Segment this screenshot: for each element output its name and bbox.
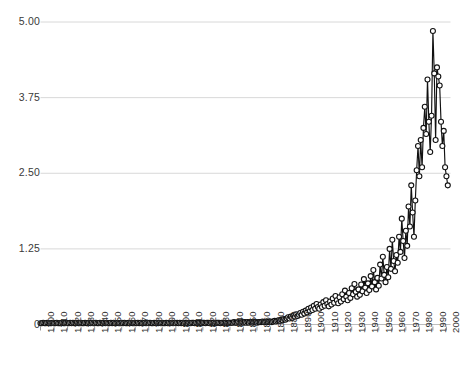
xtick-label-1790: 1790 [166,311,177,333]
data-point [445,183,450,188]
xtick-label-1860: 1860 [261,311,272,333]
xtick-label-1710: 1710 [58,311,69,333]
data-point [395,260,400,265]
data-point [417,174,422,179]
data-point [425,77,430,82]
xtick-label-1830: 1830 [220,311,231,333]
xtick-label-1910: 1910 [329,311,340,333]
ytick-label-1.25: 1.25 [0,243,40,253]
data-point [376,283,381,288]
data-point [361,277,366,282]
xtick-label-1970: 1970 [410,311,421,333]
data-point [352,281,357,286]
data-point [437,83,442,88]
data-point [390,237,395,242]
xtick-label-1960: 1960 [396,311,407,333]
data-point [420,165,425,170]
xtick-label-1950: 1950 [383,311,394,333]
xtick-label-1870: 1870 [275,311,286,333]
data-point [443,165,448,170]
xtick-label-1800: 1800 [180,311,191,333]
ytick-label-3.75: 3.75 [0,92,40,102]
data-point [387,246,392,251]
data-point [441,128,446,133]
xtick-label-1780: 1780 [153,311,164,333]
xtick-label-1880: 1880 [288,311,299,333]
data-point [421,125,426,130]
xtick-label-1920: 1920 [342,311,353,333]
data-point [416,144,421,149]
data-point [436,74,441,79]
xtick-label-2000: 2000 [450,311,461,333]
ytick-label-5.00: 5.00 [0,16,40,26]
data-point [368,274,373,279]
xtick-label-1850: 1850 [247,311,258,333]
data-point [407,224,412,229]
data-point [378,262,383,267]
xtick-label-1730: 1730 [85,311,96,333]
data-point [426,119,431,124]
xtick-label-1750: 1750 [112,311,123,333]
data-point-group [38,29,450,326]
data-point [413,198,418,203]
data-point [386,275,391,280]
data-point [429,113,434,118]
data-point [405,243,410,248]
data-point [418,137,423,142]
data-point [397,234,402,239]
ytick-label-0: 0 [0,319,40,329]
xtick-label-1980: 1980 [423,311,434,333]
xtick-label-1760: 1760 [126,311,137,333]
data-point [434,65,439,70]
xtick-label-1810: 1810 [193,311,204,333]
data-point [406,204,411,209]
data-point [444,174,449,179]
xtick-label-1700: 1700 [45,311,56,333]
data-point [422,104,427,109]
data-point [402,255,407,260]
xtick-label-1900: 1900 [315,311,326,333]
xtick-label-1990: 1990 [437,311,448,333]
data-point [433,137,438,142]
data-point [399,216,404,221]
xtick-label-1720: 1720 [72,311,83,333]
data-point [430,29,435,34]
xtick-label-1840: 1840 [234,311,245,333]
data-point [439,119,444,124]
xtick-label-1890: 1890 [302,311,313,333]
data-point [409,183,414,188]
xtick-label-1820: 1820 [207,311,218,333]
data-point [371,268,376,273]
data-point [424,131,429,136]
xtick-label-1930: 1930 [356,311,367,333]
data-point [401,239,406,244]
data-point [398,249,403,254]
xtick-label-1740: 1740 [99,311,110,333]
data-point [414,168,419,173]
data-point [403,228,408,233]
xtick-label-1770: 1770 [139,311,150,333]
ytick-label-2.50: 2.50 [0,167,40,177]
data-point [410,210,415,215]
data-point [383,280,388,285]
data-point [411,234,416,239]
data-point [428,150,433,155]
xtick-label-1940: 1940 [369,311,380,333]
data-point [440,144,445,149]
data-point [380,254,385,259]
data-point [393,269,398,274]
